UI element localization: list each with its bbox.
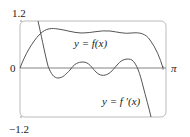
f-label-prefix: y = [74,37,92,49]
x-tick-label-pi: π [171,63,177,74]
fprime-curve-label: y = f ′(x) [102,96,140,107]
fprime-label-func: f ′(x) [120,95,140,107]
y-tick-label-top: 1.2 [12,8,26,19]
fprime-label-prefix: y = [102,95,120,107]
y-tick-label-zero: 0 [10,63,16,74]
f-label-func: f(x) [92,37,107,49]
chart-canvas [0,0,190,137]
y-tick-label-bottom: −1.2 [9,124,29,135]
f-curve-label: y = f(x) [74,38,107,49]
